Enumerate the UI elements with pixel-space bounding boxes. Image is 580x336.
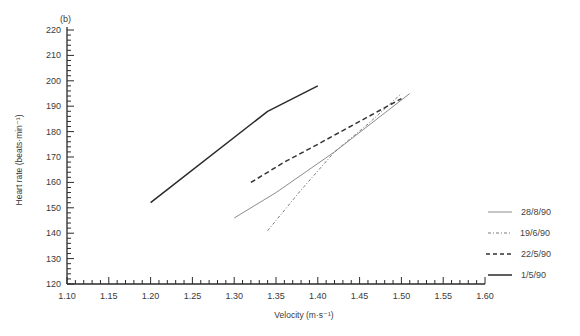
legend-label: 28/8/90 [521, 207, 551, 217]
y-tick-label: 130 [46, 254, 61, 264]
x-tick-label: 1.35 [267, 291, 285, 301]
legend-item-28-8-90: 28/8/90 [488, 207, 551, 217]
heart-rate-velocity-chart: (b) 1.101.151.201.251.301.351.401.451.50… [0, 0, 580, 336]
series-lines [151, 86, 410, 231]
y-ticks [67, 30, 74, 284]
x-tick-label: 1.30 [225, 291, 243, 301]
y-tick-label: 160 [46, 177, 61, 187]
y-tick-label: 220 [46, 25, 61, 35]
x-tick-label: 1.45 [351, 291, 369, 301]
x-tick-label: 1.20 [142, 291, 160, 301]
y-tick-label: 140 [46, 228, 61, 238]
legend: 28/8/90 19/6/90 22/5/90 1/5/90 [486, 207, 551, 280]
x-tick-label: 1.60 [476, 291, 494, 301]
legend-label: 22/5/90 [521, 249, 551, 259]
legend-item-22-5-90: 22/5/90 [486, 249, 551, 259]
y-axis-title: Heart rate (beats·min⁻¹) [14, 114, 24, 205]
y-tick-label: 190 [46, 101, 61, 111]
x-axis-title: Velocity (m·s⁻¹) [274, 310, 333, 320]
x-tick-label: 1.25 [184, 291, 202, 301]
x-ticks [67, 277, 485, 284]
y-tick-label: 200 [46, 76, 61, 86]
x-tick-label: 1.10 [58, 291, 76, 301]
legend-label: 1/5/90 [521, 270, 546, 280]
x-tick-label: 1.15 [100, 291, 118, 301]
x-tick-labels: 1.101.151.201.251.301.351.401.451.501.55… [58, 291, 494, 301]
panel-label: (b) [60, 14, 71, 24]
y-tick-label: 120 [46, 279, 61, 289]
series-line-28-8-90 [234, 94, 410, 219]
y-tick-label: 210 [46, 50, 61, 60]
legend-item-1-5-90: 1/5/90 [488, 270, 546, 280]
series-line-19-6-90 [268, 94, 402, 231]
y-tick-label: 180 [46, 127, 61, 137]
series-line-1-5-90 [151, 86, 318, 203]
legend-item-19-6-90: 19/6/90 [488, 228, 550, 238]
y-tick-label: 150 [46, 203, 61, 213]
legend-label: 19/6/90 [520, 228, 550, 238]
x-tick-label: 1.40 [309, 291, 327, 301]
series-line-22-5-90 [251, 99, 402, 183]
y-tick-label: 170 [46, 152, 61, 162]
axes [67, 27, 485, 284]
x-tick-label: 1.55 [434, 291, 452, 301]
y-tick-labels: 120130140150160170180190200210220 [46, 25, 61, 289]
x-tick-label: 1.50 [393, 291, 411, 301]
